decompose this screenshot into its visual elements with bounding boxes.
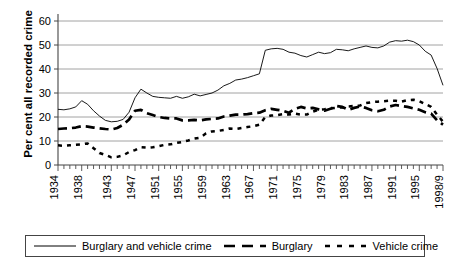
gridlines: [58, 21, 443, 141]
chart-legend: Burglary and vehicle crime Burglary Vehi…: [25, 235, 425, 257]
svg-text:0: 0: [45, 159, 51, 171]
legend-item-burglary: Burglary: [222, 240, 313, 252]
svg-text:1934: 1934: [48, 175, 60, 199]
svg-text:10: 10: [39, 135, 51, 147]
legend-swatch-dashed-icon: [222, 241, 268, 251]
svg-text:30: 30: [39, 87, 51, 99]
legend-item-vehicle: Vehicle crime: [323, 240, 438, 252]
x-axis-ticks: [58, 165, 443, 171]
svg-text:1998/9: 1998/9: [433, 175, 445, 209]
svg-text:1959: 1959: [196, 175, 208, 199]
legend-label-vehicle: Vehicle crime: [373, 240, 438, 252]
svg-text:1943: 1943: [101, 175, 113, 199]
y-axis-tick-labels: 0102030405060: [39, 15, 51, 171]
svg-text:1979: 1979: [315, 175, 327, 199]
svg-text:50: 50: [39, 39, 51, 51]
svg-text:1955: 1955: [172, 175, 184, 199]
legend-item-combined: Burglary and vehicle crime: [32, 240, 212, 252]
svg-text:1971: 1971: [267, 175, 279, 199]
svg-text:1975: 1975: [291, 175, 303, 199]
svg-text:1963: 1963: [220, 175, 232, 199]
y-axis-ticks: [54, 21, 58, 165]
legend-swatch-dotted-icon: [323, 241, 369, 251]
legend-label-combined: Burglary and vehicle crime: [82, 240, 212, 252]
svg-text:1987: 1987: [362, 175, 374, 199]
chart-figure: Per cent all recorded crime 010203040506…: [0, 0, 455, 267]
svg-text:40: 40: [39, 63, 51, 75]
legend-swatch-solid-icon: [32, 241, 78, 251]
svg-text:1995: 1995: [409, 175, 421, 199]
svg-text:60: 60: [39, 15, 51, 27]
svg-text:20: 20: [39, 111, 51, 123]
x-axis-tick-labels: 1934193819431947195119551959196319671971…: [48, 175, 445, 209]
legend-label-burglary: Burglary: [272, 240, 313, 252]
svg-text:1991: 1991: [386, 175, 398, 199]
svg-text:1947: 1947: [125, 175, 137, 199]
svg-text:1983: 1983: [338, 175, 350, 199]
chart-plot-area: 0102030405060 19341938194319471951195519…: [0, 0, 455, 220]
axis-lines: [58, 14, 443, 165]
svg-text:1938: 1938: [72, 175, 84, 199]
data-series-group: [58, 40, 443, 157]
line-chart-svg: 0102030405060 19341938194319471951195519…: [0, 0, 455, 220]
svg-text:1967: 1967: [243, 175, 255, 199]
svg-text:1951: 1951: [149, 175, 161, 199]
